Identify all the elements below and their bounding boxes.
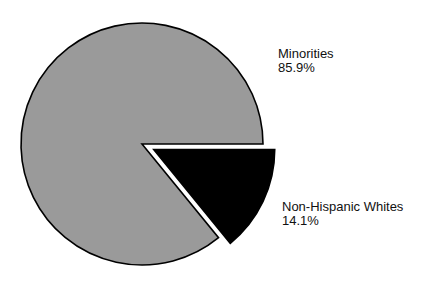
slice-label-value: 85.9% — [278, 61, 334, 75]
slice-label-non-hispanic-whites: Non-Hispanic Whites 14.1% — [282, 200, 403, 228]
pie-chart — [0, 0, 424, 285]
slice-label-value: 14.1% — [282, 214, 403, 228]
slice-label-name: Minorities — [278, 47, 334, 61]
slice-label-minorities: Minorities 85.9% — [278, 47, 334, 75]
slice-label-name: Non-Hispanic Whites — [282, 200, 403, 214]
